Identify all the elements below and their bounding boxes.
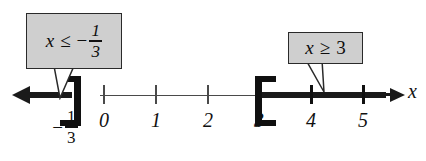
callout-left-numerator: 1: [90, 22, 103, 39]
tick-label-negative-one-third: − 1 3: [44, 108, 86, 146]
fraction-numerator: 1: [65, 108, 78, 125]
axis-interior-segment: [100, 95, 260, 96]
tick-label-1: 1: [141, 110, 171, 130]
axis-arrowhead-right-icon: [390, 88, 405, 102]
fraction-denominator: 3: [65, 129, 78, 146]
callout-box-right: x ≥ 3: [288, 32, 363, 64]
tick-label-5: 5: [348, 110, 378, 130]
tick-label-2: 2: [193, 110, 223, 130]
tick-mark-3: [258, 85, 261, 104]
callout-left-variable: x: [46, 30, 54, 52]
callout-right-value: 3: [336, 37, 346, 59]
callout-left-fraction: 1 3: [89, 22, 102, 60]
callout-tail-right: [300, 60, 332, 94]
tick-label-3: 3: [244, 110, 274, 130]
tick-mark-0: [103, 85, 105, 104]
tick-mark-2: [207, 85, 209, 104]
callout-tail-left: [46, 66, 86, 100]
axis-variable-label: x: [408, 80, 417, 103]
callout-left-relation: ≤: [60, 30, 70, 52]
tick-mark-5: [362, 85, 365, 104]
callout-right-variable: x: [305, 37, 313, 59]
fraction-one-third: 1 3: [65, 108, 78, 146]
callout-right-relation: ≥: [320, 37, 330, 59]
callout-left-denominator: 3: [90, 43, 103, 60]
axis-arrowhead-left-icon: [12, 86, 30, 104]
tick-label-0: 0: [89, 110, 119, 130]
callout-left-negative-sign: −: [77, 30, 88, 52]
callout-box-left: x ≤ − 1 3: [26, 13, 122, 69]
callout-right-expression: x ≥ 3: [305, 37, 345, 59]
fraction-minus-sign: −: [52, 118, 63, 137]
tick-label-4: 4: [296, 110, 326, 130]
tick-mark-1: [155, 85, 157, 104]
callout-left-expression: x ≤ − 1 3: [46, 22, 103, 60]
number-line-figure: − 1 3 0 1 2 3 4 5 x x ≤ − 1 3 x: [0, 0, 426, 161]
